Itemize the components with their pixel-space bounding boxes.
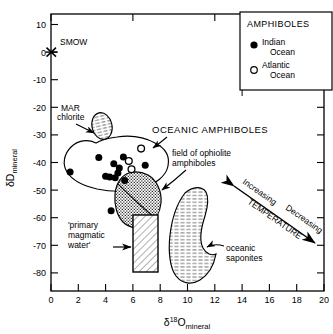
y-tick-label: -40 [33,158,46,168]
y-tick-label: 0 [41,48,46,58]
oceanic-saponites-annotation: oceanic saponites [207,243,262,263]
x-axis-tick-labels: 0 2 4 6 8 10 12 14 16 18 20 [48,295,329,305]
data-point [112,174,119,181]
data-point [108,207,115,214]
filled-circle-icon [250,41,257,48]
y-tick-label: -10 [33,75,46,85]
x-axis-title-sub: mineral [186,322,211,331]
data-point [67,169,74,176]
y-tick-label: -70 [33,241,46,251]
oceanic-saponites-blob [169,188,216,283]
x-tick-label: 6 [130,295,135,305]
y-tick-label: -30 [33,130,46,140]
mar-chlorite-label-line2: chlorite [57,112,85,122]
primary-water-label-line2: magmatic [68,230,106,240]
primary-water-label-line1: 'primary [68,220,99,230]
x-tick-label: 8 [158,295,163,305]
primary-magmatic-water-box [133,215,158,272]
y-axis-title-main: δD [4,173,16,187]
x-tick-label: 16 [264,295,274,305]
data-point [138,145,145,152]
primary-water-label-line3: water' [67,240,91,250]
y-tick-label: -20 [33,103,46,113]
oceanic-saponites-field [169,188,216,283]
data-point [95,154,102,161]
data-point [125,158,132,165]
primary-magmatic-water-annotation: 'primary magmatic water' [67,220,131,250]
x-axis-title-mid: O [177,316,185,328]
temperature-arrow-group: Increasing TEMPERATURE Decreasing [234,176,325,243]
svg-text:δDmineral: δDmineral [4,149,19,187]
mar-chlorite-annotation: MAR chlorite [57,103,94,133]
mar-chlorite-field [89,111,115,142]
legend-item-label-line2: Ocean [270,47,295,57]
x-tick-label: 10 [182,295,192,305]
data-point [128,166,135,173]
x-tick-label: 18 [292,295,302,305]
legend[interactable]: AMPHIBOLES Indian Ocean Atlantic Ocean [240,12,332,90]
x-tick-label: 0 [48,295,53,305]
x-axis-title-sup: 18 [170,316,178,323]
y-tick-label: 10 [36,20,46,30]
oceanic-amphiboles-annotation: OCEANIC AMPHIBOLES [152,124,268,148]
x-tick-label: 20 [319,295,329,305]
data-point [142,162,149,169]
ophiolite-label-line1: field of ophiolite [172,148,231,158]
y-tick-label: -50 [33,186,46,196]
data-point [102,173,109,180]
y-tick-label: -60 [33,213,46,223]
ophiolite-label-line2: amphiboles [172,158,215,168]
y-axis-title-sub: mineral [10,149,19,174]
legend-item-label-line1: Atlantic [262,60,291,70]
x-axis-title: δ18Omineral [164,316,211,331]
x-tick-label: 4 [103,295,108,305]
x-tick-label: 2 [76,295,81,305]
primary-magmatic-water-field [133,215,158,272]
oceanic-amphiboles-label: OCEANIC AMPHIBOLES [152,124,268,135]
series-atlantic-ocean-points [125,145,144,173]
figure-root: 10 0 -10 -20 -30 -40 -50 -60 -70 -80 δDm… [0,0,333,334]
x-tick-label: 14 [237,295,247,305]
smow-label: SMOW [60,37,87,47]
y-tick-label: -80 [33,268,46,278]
saponites-label-line1: oceanic [226,243,256,253]
data-point [121,177,128,184]
data-point [110,160,117,167]
mar-chlorite-ellipse [89,111,115,142]
legend-title: AMPHIBOLES [247,19,310,29]
x-tick-label: 12 [210,295,220,305]
saponites-label-line2: saponites [226,253,262,263]
legend-item-label-line1: Indian [262,37,285,47]
ophiolite-amphiboles-annotation: field of ophiolite amphiboles [162,148,231,190]
oxygen-hydrogen-isotope-scatter-plot: 10 0 -10 -20 -30 -40 -50 -60 -70 -80 δDm… [0,0,333,334]
y-axis-title: δDmineral [4,149,19,187]
open-circle-icon [251,67,258,74]
saponites-arrow [207,245,224,247]
y-axis-tick-labels: 10 0 -10 -20 -30 -40 -50 -60 -70 -80 [33,20,46,278]
legend-item-label-line2: Ocean [270,70,295,80]
